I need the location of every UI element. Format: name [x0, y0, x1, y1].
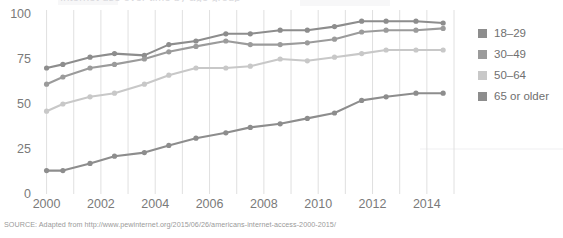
data-point — [44, 109, 49, 114]
data-point — [60, 62, 65, 67]
data-point — [383, 94, 388, 99]
x-tick-label: 2002 — [87, 198, 115, 211]
series-50-64 — [44, 47, 446, 113]
data-point — [278, 56, 283, 61]
data-point — [87, 161, 92, 166]
data-point — [44, 65, 49, 70]
data-point — [248, 42, 253, 47]
x-tick-label: 2008 — [250, 198, 278, 211]
data-point — [332, 24, 337, 29]
series-line — [47, 28, 444, 84]
data-point — [44, 168, 49, 173]
series-65-or-older — [44, 91, 446, 174]
data-point — [87, 65, 92, 70]
x-tick-label: 2000 — [33, 198, 61, 211]
data-point — [278, 121, 283, 126]
chart-figure: Internet use over time by age group 0255… — [0, 0, 563, 238]
x-tick-label: 2004 — [141, 198, 169, 211]
data-point — [193, 136, 198, 141]
data-point — [223, 130, 228, 135]
data-point — [87, 55, 92, 60]
data-point — [223, 65, 228, 70]
data-point — [248, 64, 253, 69]
data-point — [413, 28, 418, 33]
data-point — [142, 150, 147, 155]
x-tick-label: 2014 — [413, 198, 441, 211]
legend-item-18-29[interactable]: 18–29 — [478, 24, 563, 43]
data-point — [359, 51, 364, 56]
data-point — [112, 51, 117, 56]
legend-label: 30–49 — [494, 49, 526, 61]
data-point — [383, 28, 388, 33]
data-point — [332, 110, 337, 115]
data-point — [142, 82, 147, 87]
data-point — [44, 82, 49, 87]
data-point — [193, 38, 198, 43]
data-point — [248, 125, 253, 130]
legend-item-65-or-older[interactable]: 65 or older — [478, 87, 563, 106]
data-point — [166, 73, 171, 78]
data-point — [359, 29, 364, 34]
series-line — [47, 50, 444, 111]
data-point — [193, 65, 198, 70]
data-point — [193, 44, 198, 49]
chart-legend: 18–2930–4950–6465 or older — [478, 24, 563, 108]
legend-label: 18–29 — [494, 28, 526, 40]
data-point — [278, 42, 283, 47]
chart-svg — [0, 10, 470, 200]
x-axis: 20002002200420062008201020122014 — [0, 198, 470, 216]
series-line — [47, 93, 444, 170]
data-point — [413, 91, 418, 96]
data-point — [383, 47, 388, 52]
legend-label: 50–64 — [494, 70, 526, 82]
data-point — [60, 74, 65, 79]
data-point — [112, 91, 117, 96]
data-point — [383, 19, 388, 24]
data-point — [142, 56, 147, 61]
data-point — [166, 49, 171, 54]
data-point — [60, 168, 65, 173]
x-tick-label: 2006 — [196, 198, 224, 211]
data-point — [413, 47, 418, 52]
legend-item-50-64[interactable]: 50–64 — [478, 66, 563, 85]
legend-swatch-icon — [478, 71, 487, 80]
data-series-layer — [44, 19, 446, 174]
data-point — [441, 20, 446, 25]
x-tick-label: 2010 — [304, 198, 332, 211]
data-point — [278, 28, 283, 33]
source-note: SOURCE: Adapted from http://www.pewinter… — [4, 220, 336, 229]
legend-label: 65 or older — [494, 91, 549, 103]
chart-title-sliver: Internet use over time by age group — [60, 0, 390, 2]
data-point — [441, 47, 446, 52]
data-point — [441, 91, 446, 96]
legend-swatch-icon — [478, 92, 487, 101]
data-point — [60, 101, 65, 106]
data-point — [87, 94, 92, 99]
data-point — [332, 55, 337, 60]
series-30-49 — [44, 26, 446, 87]
data-point — [332, 37, 337, 42]
data-point — [166, 42, 171, 47]
gridlines — [47, 10, 454, 194]
data-point — [248, 31, 253, 36]
legend-item-30-49[interactable]: 30–49 — [478, 45, 563, 64]
data-point — [305, 28, 310, 33]
data-point — [359, 19, 364, 24]
legend-swatch-icon — [478, 29, 487, 38]
data-point — [223, 38, 228, 43]
data-point — [166, 143, 171, 148]
data-point — [112, 154, 117, 159]
data-point — [112, 62, 117, 67]
data-point — [305, 58, 310, 63]
data-point — [305, 116, 310, 121]
data-point — [359, 98, 364, 103]
x-tick-label: 2012 — [359, 198, 387, 211]
data-point — [413, 19, 418, 24]
data-point — [223, 31, 228, 36]
data-point — [441, 26, 446, 31]
plot-area — [0, 10, 470, 200]
legend-swatch-icon — [478, 50, 487, 59]
data-point — [305, 40, 310, 45]
